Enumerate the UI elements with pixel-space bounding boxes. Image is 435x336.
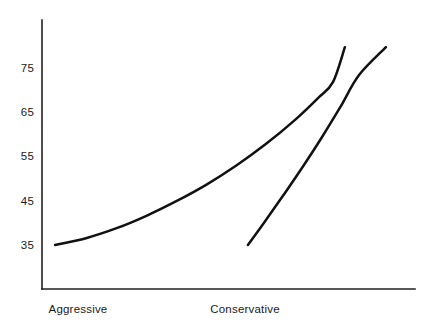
y-tick-label-3: 45 — [8, 195, 34, 207]
x-tick-label-conservative: Conservative — [185, 303, 305, 316]
y-tick-label-4: 35 — [8, 239, 34, 251]
y-tick-label-2: 55 — [8, 150, 34, 162]
y-tick-label-1: 65 — [8, 106, 34, 118]
x-tick-label-aggressive: Aggressive — [18, 303, 138, 316]
y-tick-label-0: 75 — [8, 62, 34, 74]
data-series-group — [55, 47, 386, 245]
data-line-curve-2 — [248, 47, 386, 245]
data-line-curve-1 — [55, 47, 345, 245]
chart-container: 75 65 55 45 35 Aggressive Conservative — [0, 0, 435, 336]
chart-plot-area — [0, 0, 435, 336]
